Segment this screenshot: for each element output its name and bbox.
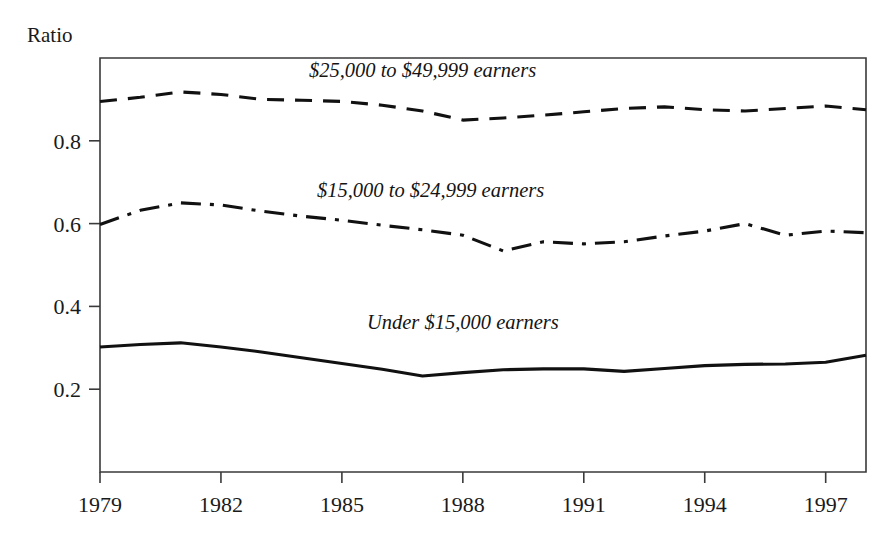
series-label-2: $15,000 to $24,999 earners	[317, 179, 544, 201]
ratio-line-chart: Ratio 0.20.40.60.8 197919821985198819911…	[0, 0, 895, 535]
y-tick-label: 0.4	[54, 294, 82, 319]
series-label-1: $25,000 to $49,999 earners	[309, 59, 536, 81]
x-tick-label: 1985	[320, 492, 364, 517]
x-tick-label: 1988	[441, 492, 485, 517]
y-axis-title: Ratio	[27, 23, 73, 47]
series-label-3: Under $15,000 earners	[367, 311, 559, 333]
y-tick-label: 0.6	[54, 212, 82, 237]
x-tick-label: 1982	[199, 492, 243, 517]
y-tick-label: 0.8	[54, 129, 82, 154]
x-tick-label: 1997	[804, 492, 848, 517]
x-tick-label: 1979	[78, 492, 122, 517]
y-tick-label: 0.2	[54, 377, 82, 402]
x-tick-label: 1991	[562, 492, 606, 517]
x-tick-label: 1994	[683, 492, 727, 517]
